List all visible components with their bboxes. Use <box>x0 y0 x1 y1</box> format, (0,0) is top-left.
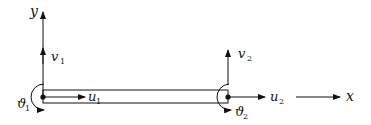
y-axis: y <box>29 3 43 97</box>
node-2: v 2 u 2 ϑ 2 <box>217 46 284 121</box>
y-axis-label: y <box>29 3 39 19</box>
theta1-subscript: 1 <box>25 104 30 113</box>
beam-element-diagram: y v 1 u 1 ϑ 1 v 2 u 2 ϑ 2 x <box>0 0 371 125</box>
v1-dof: v 1 <box>43 48 65 66</box>
v1-subscript: 1 <box>60 57 65 66</box>
u1-subscript: 1 <box>96 97 101 106</box>
v1-label: v <box>51 49 59 64</box>
x-axis-label: x <box>346 88 354 104</box>
v2-label: v <box>238 46 246 61</box>
u2-label: u <box>270 89 278 104</box>
u2-subscript: 2 <box>279 97 284 106</box>
node-1: u 1 ϑ 1 <box>17 84 101 113</box>
v2-subscript: 2 <box>247 54 252 63</box>
theta2-subscript: 2 <box>243 112 248 121</box>
x-axis: x <box>296 88 354 104</box>
